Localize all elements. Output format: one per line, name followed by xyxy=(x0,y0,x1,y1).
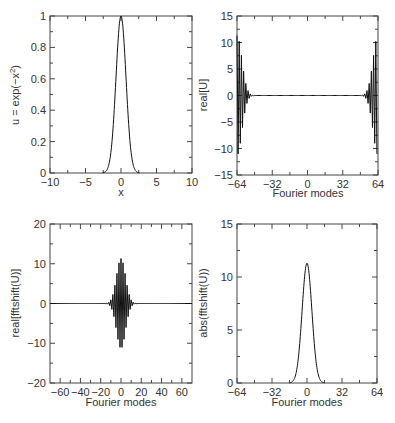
x-tick-label: 60 xyxy=(176,386,188,398)
y-tick-label: 0.6 xyxy=(31,73,46,85)
x-tick-label: 64 xyxy=(372,178,384,190)
y-axis-label-abs-fftshift-U: abs(fftshift(U)) xyxy=(197,268,209,337)
y-tick-label: 0 xyxy=(40,167,46,179)
y-tick-label: 5 xyxy=(227,63,233,75)
y-tick-label: 5 xyxy=(227,324,233,336)
y-tick-label: −15 xyxy=(214,169,233,181)
y-tick-label: 15 xyxy=(221,10,233,22)
y-tick-label: 0.4 xyxy=(31,104,46,116)
y-tick-label: 10 xyxy=(221,37,233,49)
x-tick-label: 64 xyxy=(371,386,383,398)
x-axis-label-real-U: Fourier modes xyxy=(273,187,344,199)
real-U-curve xyxy=(237,36,377,154)
panel-gaussian: −10−5051000.20.40.60.81 xyxy=(31,10,198,188)
y-tick-label: 0 xyxy=(227,377,233,389)
y-axis-label-real-U: real[U] xyxy=(197,79,209,111)
abs-fftshift-U-curve xyxy=(290,263,325,383)
x-tick-label: −60 xyxy=(51,386,70,398)
x-axis-label-gaussian: x xyxy=(118,186,124,198)
x-tick-label: 5 xyxy=(153,176,159,188)
y-tick-label: 0 xyxy=(40,298,46,310)
panel-real-U: −64−3203264−15−10−5051015 xyxy=(214,10,384,190)
x-tick-label: −5 xyxy=(79,176,92,188)
y-tick-label: 0.8 xyxy=(31,41,46,53)
real-fftshift-U-curve xyxy=(56,259,185,348)
gaussian-curve xyxy=(103,16,140,173)
y-tick-label: −10 xyxy=(27,337,46,349)
y-tick-label: 1 xyxy=(40,10,46,22)
y-axis-label-gaussian: u = exp(−x2) xyxy=(8,65,21,125)
plot-frame xyxy=(237,224,377,383)
y-tick-label: 0 xyxy=(227,90,233,102)
y-tick-label: 0.2 xyxy=(31,136,46,148)
x-tick-label: 10 xyxy=(186,176,198,188)
panel-abs-fftshift-U: −64−3203264051015 xyxy=(221,218,383,398)
y-axis-label-real-fftshift-U: real[fftshift(U)] xyxy=(9,269,21,338)
y-tick-label: 10 xyxy=(34,258,46,270)
y-tick-label: 20 xyxy=(34,218,46,230)
figure: −10−5051000.20.40.60.81 −64−3203264−15−1… xyxy=(0,0,395,423)
panel-real-fftshift-U: −60−40−200204060−20−1001020 xyxy=(27,218,192,398)
y-tick-label: 15 xyxy=(221,218,233,230)
plot-frame xyxy=(50,16,192,173)
x-axis-label-abs-fftshift-U: Fourier modes xyxy=(272,396,343,408)
x-tick-label: 40 xyxy=(155,386,167,398)
x-axis-label-real-fftshift-U: Fourier modes xyxy=(86,396,157,408)
y-tick-label: −5 xyxy=(220,116,233,128)
y-tick-label: 10 xyxy=(221,271,233,283)
y-tick-label: −20 xyxy=(27,377,46,389)
y-tick-label: −10 xyxy=(214,143,233,155)
